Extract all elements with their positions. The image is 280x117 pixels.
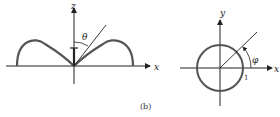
figure-caption: (b) [140, 102, 151, 111]
left-panel: z θ x [6, 1, 159, 84]
y-axis-label: y [219, 8, 226, 18]
right-x-axis-label: x [274, 64, 279, 74]
theta-label: θ [82, 32, 88, 42]
phi-arc [243, 47, 251, 68]
left-x-axis-label: x [154, 62, 159, 72]
phi-label: φ [252, 55, 259, 65]
right-lobe [74, 40, 133, 66]
z-axis-label: z [70, 1, 76, 11]
theta-arc [74, 42, 88, 46]
figure-canvas: z θ x y φ x 1 (b) [0, 0, 280, 117]
radius-label: 1 [244, 74, 248, 82]
right-panel: y φ x 1 [180, 8, 279, 106]
left-lobe [17, 40, 74, 66]
